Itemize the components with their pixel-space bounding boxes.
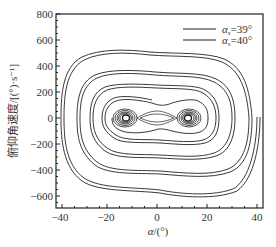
- trajectory-curves: [61, 50, 260, 197]
- x-tick-label: 0: [154, 211, 160, 223]
- y-tick-label: 400: [37, 60, 54, 72]
- x-tick-label: 40: [252, 211, 264, 223]
- x-axis-title: α/(°): [148, 225, 169, 238]
- saddle-curves: [137, 111, 177, 125]
- y-tick-label: −600: [30, 190, 53, 202]
- y-tick-label: −400: [30, 164, 53, 176]
- phase-portrait-chart: 800 600 400 200 0 −200 −400 −600 −40 −20…: [0, 0, 276, 247]
- right-focus-loops: [177, 109, 201, 127]
- chart-svg: 800 600 400 200 0 −200 −400 −600 −40 −20…: [0, 0, 276, 247]
- x-tick-labels: −40 −20 0 20 40: [51, 211, 263, 223]
- legend-label: αs=40°: [222, 34, 252, 48]
- y-axis-title: 俯仰角速度/[(°)·s⁻¹]: [6, 64, 20, 158]
- x-tick-label: 20: [202, 211, 214, 223]
- x-axis-ticks: [62, 204, 257, 208]
- legend-item-40: αs=40°: [183, 34, 252, 48]
- left-focus-loops: [113, 109, 137, 127]
- x-tick-label: −20: [97, 211, 115, 223]
- y-tick-label: 600: [37, 34, 54, 46]
- y-tick-label: −200: [30, 138, 53, 150]
- y-tick-label: 0: [48, 112, 54, 124]
- y-tick-label: 200: [37, 86, 54, 98]
- y-tick-label: 800: [37, 8, 54, 20]
- x-tick-label: −40: [51, 211, 69, 223]
- series-alpha-40: [61, 50, 260, 197]
- legend: αs=39° αs=40°: [183, 23, 252, 48]
- y-tick-labels: 800 600 400 200 0 −200 −400 −600: [30, 8, 53, 202]
